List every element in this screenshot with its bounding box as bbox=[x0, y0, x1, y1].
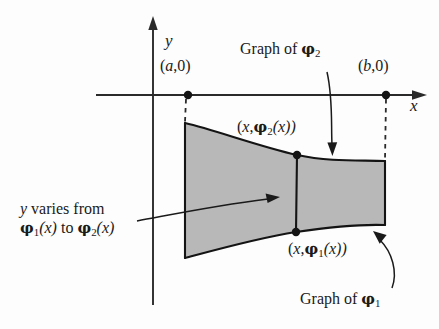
shaded-region bbox=[185, 123, 385, 258]
lower-point-phi: φ bbox=[304, 240, 318, 258]
y-axis-label: y bbox=[165, 31, 173, 51]
region-diagram: y x (a,0) (b,0) Graph of φ2 Graph of φ1 … bbox=[0, 0, 439, 329]
graph-of-phi2-label: Graph of φ2 bbox=[240, 40, 321, 60]
y-varies-arg-2: (x) bbox=[97, 219, 115, 236]
y-varies-phi-lower: φ bbox=[20, 219, 34, 237]
point-a-label: (a,0) bbox=[160, 57, 191, 76]
leader-arrow-graph-phi2 bbox=[327, 72, 332, 145]
upper-point-label: (x,φ2(x)) bbox=[237, 118, 296, 138]
lower-point-label: (x,φ1(x)) bbox=[288, 240, 347, 260]
x-axis-label: x bbox=[410, 96, 418, 116]
phi-subscript-lower: 1 bbox=[375, 297, 380, 309]
point-b-label: (b,0) bbox=[358, 57, 389, 76]
dashed-line-b bbox=[385, 99, 386, 160]
y-varies-phi-upper: φ bbox=[77, 219, 91, 237]
diagram-canvas bbox=[0, 0, 439, 329]
dot-point-a bbox=[184, 91, 192, 99]
y-varies-arg-1: (x) bbox=[39, 219, 57, 236]
graph-of-text-upper: Graph of bbox=[240, 40, 301, 57]
y-varies-to: to bbox=[57, 219, 77, 236]
y-axis-arrowhead bbox=[148, 16, 157, 30]
dot-point-b bbox=[382, 91, 390, 99]
dot-upper-point bbox=[293, 151, 301, 159]
upper-point-arg: (x)) bbox=[273, 118, 296, 135]
leader-arrow-graph-phi1 bbox=[380, 240, 394, 288]
dashed-line-a bbox=[185, 99, 186, 122]
y-varies-line-2: φ1(x))(x) to φ2(x) bbox=[20, 219, 114, 239]
y-varies-annotation: y varies from φ1(x))(x) to φ2(x) bbox=[20, 200, 114, 239]
upper-point-phi: φ bbox=[253, 118, 267, 136]
y-varies-line-1: y varies from bbox=[20, 200, 114, 219]
lower-point-arg: (x)) bbox=[324, 240, 347, 257]
phi-glyph-upper: φ bbox=[301, 40, 315, 58]
graph-of-phi1-label: Graph of φ1 bbox=[300, 290, 381, 310]
dot-lower-point bbox=[292, 228, 300, 236]
y-varies-text: varies from bbox=[27, 200, 104, 217]
leader-arrowhead-graph-phi2 bbox=[327, 142, 337, 156]
graph-of-text-lower: Graph of bbox=[300, 290, 361, 307]
leader-arrowhead-graph-phi1 bbox=[373, 231, 387, 244]
vertical-slice-segment bbox=[296, 155, 297, 232]
phi-glyph-lower: φ bbox=[361, 290, 375, 308]
phi-subscript-upper: 2 bbox=[315, 47, 320, 59]
point-b-rest: ,0) bbox=[371, 57, 388, 74]
point-a-rest: ,0) bbox=[173, 57, 190, 74]
